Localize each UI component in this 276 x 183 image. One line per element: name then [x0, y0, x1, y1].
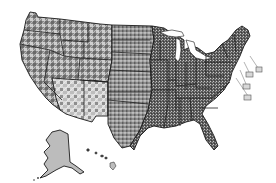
region-southwest	[52, 78, 108, 122]
alaska-inset	[40, 130, 84, 178]
callout-box-3	[243, 84, 250, 89]
callout-box-4	[244, 95, 251, 100]
aleutian-islands	[21, 177, 39, 183]
us-county-choropleth-map	[0, 0, 276, 183]
region-plains	[108, 25, 154, 148]
lake-michigan	[175, 38, 181, 62]
hawaii-inset	[87, 149, 116, 170]
contiguous-us	[20, 12, 250, 150]
callout-box-1	[256, 67, 262, 72]
callouts	[236, 56, 262, 100]
callout-box-2	[246, 72, 253, 77]
